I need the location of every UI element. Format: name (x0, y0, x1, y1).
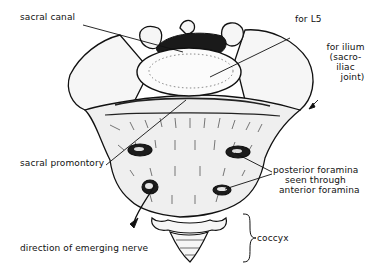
label-for-ilium-line1: for ilium (318, 42, 373, 52)
label-for-ilium-line3: iliac (318, 62, 373, 72)
label-sacral-canal: sacral canal (20, 12, 75, 22)
sacrum-diagram: sacral canal for L5 for ilium (sacro- il… (0, 0, 379, 277)
label-for-ilium-line2: (sacro- (318, 52, 373, 62)
label-for-ilium-line4: joint) (318, 72, 373, 82)
label-direction-nerve: direction of emerging nerve (20, 243, 148, 253)
label-posterior-foramina-line2: seen through (273, 175, 360, 185)
coccyx-brace (243, 214, 256, 262)
label-for-l5: for L5 (295, 14, 322, 24)
label-posterior-foramina-line1: posterior foramina (273, 165, 360, 175)
label-for-ilium: for ilium (sacro- iliac joint) (318, 42, 373, 82)
coccyx-bone (152, 218, 227, 262)
label-sacral-promontory: sacral promontory (20, 158, 104, 168)
label-posterior-foramina-line3: anterior foramina (273, 185, 360, 195)
l5-articular-surface (137, 48, 241, 96)
label-posterior-foramina: posterior foramina seen through anterior… (273, 165, 360, 195)
label-coccyx: coccyx (257, 233, 289, 243)
